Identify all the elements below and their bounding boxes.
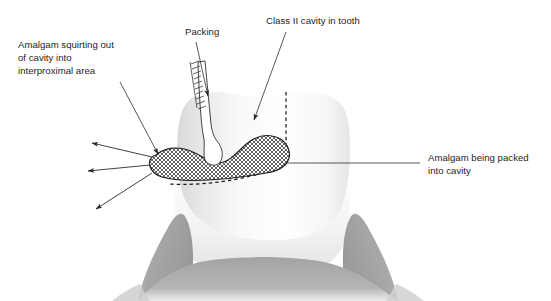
label-amalgam-squirting-line1: Amalgam squirting out xyxy=(18,39,114,50)
three-squirt-direction-arrows xyxy=(88,143,152,209)
squirt-arrow-lower xyxy=(96,173,152,209)
label-class-two-cavity: Class II cavity in tooth xyxy=(266,15,360,26)
label-amalgam-packed-line2: into cavity xyxy=(428,165,471,176)
label-packing: Packing xyxy=(185,26,219,37)
label-amalgam-squirting: Amalgam squirting out of cavity into int… xyxy=(18,39,114,76)
label-amalgam-squirting-line3: interproximal area xyxy=(18,65,96,76)
squirt-arrow-upper xyxy=(92,143,152,157)
label-amalgam-packed: Amalgam being packed into cavity xyxy=(428,152,529,176)
label-amalgam-squirting-line2: of cavity into xyxy=(18,52,72,63)
squirt-arrow-middle xyxy=(88,165,150,171)
diagram-canvas: Amalgam squirting out of cavity into int… xyxy=(0,0,551,301)
leader-amalgam-squirting xyxy=(120,82,158,154)
label-amalgam-packed-line1: Amalgam being packed xyxy=(428,152,529,163)
dental-diagram-illustration: Amalgam squirting out of cavity into int… xyxy=(0,0,551,301)
